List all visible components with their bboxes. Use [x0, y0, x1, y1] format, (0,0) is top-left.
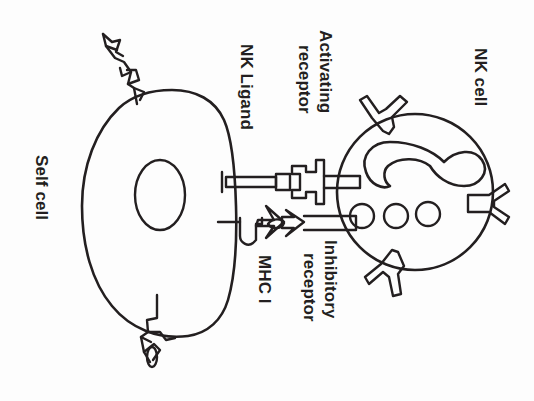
nk-granule [416, 202, 440, 226]
nk-cell-membrane [337, 114, 493, 270]
label-self-cell: Self cell [33, 155, 50, 220]
label-nk-cell: NK cell [472, 48, 489, 106]
mhc-i-molecule [218, 218, 262, 245]
nk-granule [384, 204, 408, 228]
label-nk-ligand: NK Ligand [238, 44, 255, 130]
self-cell-spike-top [103, 34, 144, 104]
label-activating-receptor-line2: receptor [296, 45, 313, 114]
inhibitory-receptor-molecule [256, 206, 356, 238]
diagram-page: Self cell NK cell NK Ligand Activating r… [0, 0, 534, 401]
activating-receptor-molecule [292, 160, 360, 204]
nk-cell-group [337, 96, 509, 296]
label-activating-receptor-line1: Activating [317, 30, 334, 113]
self-cell-nucleus [135, 160, 185, 230]
label-mhc-i: MHC I [256, 255, 273, 304]
self-cell-membrane [82, 90, 236, 337]
nk-ligand-molecule [222, 172, 290, 192]
nk-cell-nucleus [364, 142, 484, 187]
label-inhibitory-receptor-line2: receptor [301, 253, 318, 322]
self-cell-group [82, 90, 236, 337]
label-inhibitory-receptor-line1: Inhibitory [322, 240, 339, 318]
nk-self-cell-diagram [0, 0, 534, 401]
